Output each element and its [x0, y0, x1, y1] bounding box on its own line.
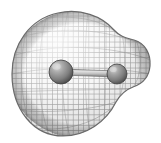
- molecular-orbital-figure: [0, 0, 161, 143]
- atom-large-highlight: [52, 63, 60, 69]
- atom-large: [49, 60, 73, 84]
- atom-small-highlight: [110, 67, 117, 72]
- isosurface-rendering: [0, 0, 161, 143]
- atom-small: [107, 64, 127, 84]
